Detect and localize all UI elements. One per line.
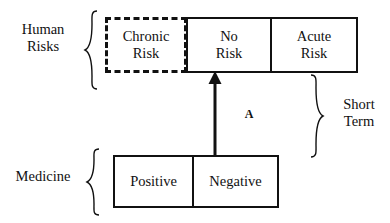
box-negative[interactable]: Negative [194, 155, 279, 208]
brace-medicine [84, 148, 102, 216]
group-label-medicine: Medicine [2, 168, 84, 185]
diagram-canvas: Human Risks Chronic Risk No Risk Acute R… [0, 0, 390, 223]
box-acute-risk[interactable]: Acute Risk [272, 17, 358, 73]
group-label-short-term: Short Term [330, 96, 388, 130]
group-label-human-risks: Human Risks [4, 21, 82, 55]
arrow-label-a: A [239, 107, 259, 122]
box-no-risk[interactable]: No Risk [186, 17, 272, 73]
brace-short-term [308, 74, 326, 158]
brace-human-risks [82, 10, 100, 90]
arrow-negative-to-no-risk [203, 68, 227, 158]
box-positive[interactable]: Positive [113, 155, 194, 208]
box-chronic-risk[interactable]: Chronic Risk [105, 17, 187, 73]
